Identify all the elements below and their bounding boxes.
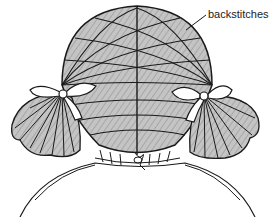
doll-hair-illustration: [0, 0, 273, 217]
callout-leader-line: [186, 15, 206, 30]
backstitches-callout-label: backstitches: [208, 8, 269, 20]
doll-body: [20, 163, 255, 217]
illustration-canvas: backstitches: [0, 0, 273, 217]
